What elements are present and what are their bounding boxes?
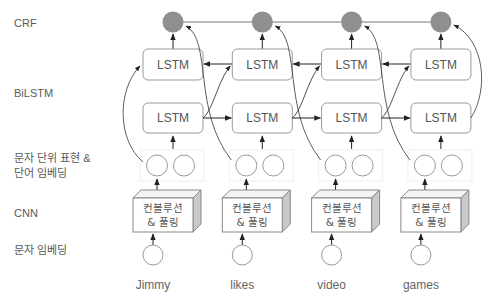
arrow-embed-to-crf [275,26,320,160]
arrow-forward-to-backward [382,66,409,118]
input-word: Jimmy [136,278,171,292]
lstm-forward-label: LSTM [246,111,278,125]
char-repr-node [236,155,257,176]
lstm-forward-label: LSTM [157,111,189,125]
word-embedding-node [352,155,373,176]
cnn-label-line1: 컨볼루션 [411,202,451,214]
word-embedding-node [263,155,284,176]
lstm-backward-label: LSTM [246,58,278,72]
char-embedding-node [411,245,431,265]
char-repr-node [325,155,346,176]
cnn-box-side [282,190,290,232]
word-embedding-node [174,155,195,176]
cnn-label-line1: 컨볼루션 [322,202,362,214]
lstm-forward-label: LSTM [336,111,368,125]
crf-node [252,12,273,33]
arrow-embed-to-backward-lstm [123,66,143,162]
char-embedding-node [322,245,342,265]
input-word: games [403,278,439,292]
crf-node [341,12,362,33]
bilstm-crf-diagram: LSTMLSTM컨볼루션& 풀링JimmyLSTMLSTM컨볼루션& 풀링lik… [0,0,492,300]
cnn-box-top [222,190,290,198]
char-embedding-node [143,245,163,265]
cnn-label-line2: & 풀링 [147,216,179,228]
cnn-label-line2: & 풀링 [415,216,447,228]
arrow-embed-to-crf [186,26,231,160]
cnn-box-side [461,190,469,232]
arrow-embed-to-crf [365,26,410,160]
cnn-label-line2: & 풀링 [237,216,269,228]
word-embedding-node [441,155,462,176]
arrow-forward-to-backward [203,66,230,118]
cnn-label-line1: 컨볼루션 [143,202,183,214]
input-word: video [317,278,346,292]
cnn-box-top [401,190,469,198]
lstm-backward-label: LSTM [157,58,189,72]
lstm-backward-label: LSTM [425,58,457,72]
cnn-box-top [312,190,380,198]
cnn-label-line1: 컨볼루션 [232,202,272,214]
char-repr-node [414,155,435,176]
arrow-forward-to-backward [292,66,319,118]
cnn-box-side [193,190,201,232]
lstm-forward-label: LSTM [425,111,457,125]
input-word: likes [230,278,254,292]
lstm-backward-label: LSTM [336,58,368,72]
cnn-label-line2: & 풀링 [326,216,358,228]
char-embedding-node [232,245,252,265]
char-repr-node [147,155,168,176]
cnn-box-side [372,190,380,232]
cnn-box-top [133,190,201,198]
crf-node [163,12,184,33]
crf-node [430,12,451,33]
